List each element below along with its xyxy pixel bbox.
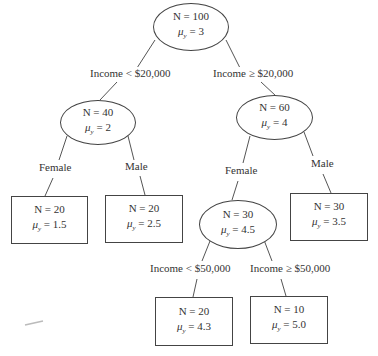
leaf-high-female-income-ge-50k: N = 10 μy = 5.0 [250,296,328,344]
edge-root-high-upper [226,40,240,68]
leaf-high-female-income-lt-50k: N = 20 μy = 4.3 [155,297,233,346]
edge-root-high-lower [261,82,276,96]
node-mean: μy = 5.0 [272,317,306,337]
edge-label-female-low: Female [38,161,72,173]
node-mean: μy = 2 [85,120,111,140]
edge-label-female-high: Female [224,164,258,176]
node-mean: μy = 1.5 [32,217,66,237]
edge-label-male-low: Male [124,160,149,172]
edge-root-low-upper [137,40,155,68]
node-n: N = 40 [83,105,114,120]
node-n: N = 60 [259,100,290,115]
node-high-female: N = 30 μy = 4.5 [199,200,277,249]
node-root: N = 100 μy = 3 [153,3,229,51]
stray-mark [25,321,43,325]
node-n: N = 20 [129,201,160,216]
edge-label-income-ge-50k: Income ≥ $50,000 [249,262,331,274]
edge-high-female-upper [243,136,250,163]
node-n: N = 30 [314,199,345,214]
edge-low-male-lower [140,176,145,195]
edge-hf-low-lower [193,279,197,297]
node-n: N = 30 [223,207,254,222]
edge-root-low-lower [100,82,117,100]
node-mean: μy = 4 [262,115,288,135]
node-mean: μy = 3 [178,24,204,44]
leaf-high-male: N = 30 μy = 3.5 [290,193,368,241]
edge-low-male-upper [128,136,134,160]
edge-hf-low-upper [202,241,210,261]
node-mean: μy = 3.5 [312,214,346,234]
node-n: N = 100 [173,9,209,24]
edge-hf-high-lower [281,279,286,296]
node-n: N = 20 [179,304,210,319]
leaf-low-male: N = 20 μy = 2.5 [105,195,183,243]
node-n: N = 10 [274,302,305,317]
node-mean: μy = 2.5 [127,216,161,236]
edge-label-income-ge-20k: Income ≥ $20,000 [212,67,294,79]
edge-low-female-lower [45,178,53,196]
leaf-low-female: N = 20 μy = 1.5 [11,196,88,244]
node-mean: μy = 4.3 [177,319,211,339]
edge-high-male-lower [323,174,331,193]
edge-label-income-lt-20k: Income < $20,000 [89,67,171,79]
node-income-ge-20k: N = 60 μy = 4 [236,95,313,140]
edge-label-male-high: Male [310,157,335,169]
edge-hf-high-upper [264,240,272,261]
edge-high-female-lower [232,181,238,200]
node-income-lt-20k: N = 40 μy = 2 [60,100,136,145]
node-n: N = 20 [34,202,65,217]
edge-low-female-upper [59,136,67,160]
node-mean: μy = 4.5 [221,222,255,242]
edge-high-male-upper [304,132,313,156]
edge-label-income-lt-50k: Income < $50,000 [149,262,231,274]
